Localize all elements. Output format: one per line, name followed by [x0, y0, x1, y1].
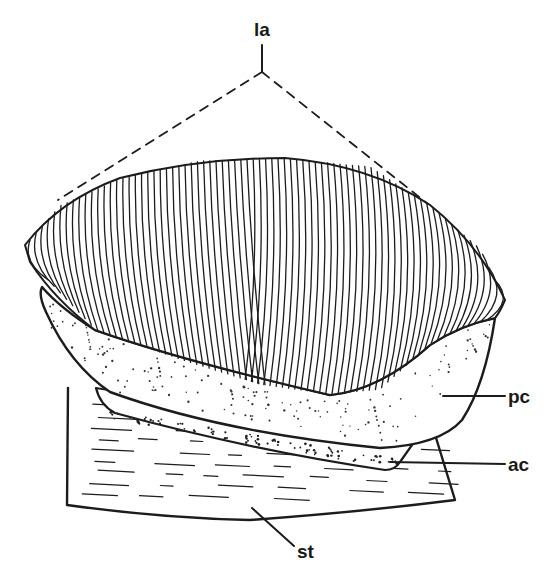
label-pc: pc [508, 386, 531, 407]
st-leader [252, 508, 294, 546]
label-st: st [297, 541, 315, 562]
label-ac: ac [508, 454, 530, 475]
diagram-figure: la pc ac st [0, 0, 553, 582]
ac-leader [390, 462, 505, 464]
label-la: la [254, 19, 270, 40]
